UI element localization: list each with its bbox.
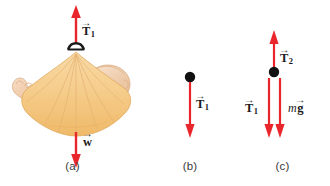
symbol-T: T→ <box>245 101 253 115</box>
label-tension-1-b: T→1 <box>196 95 209 112</box>
sling-illustration <box>0 0 145 186</box>
symbol-g: g→ <box>297 101 303 115</box>
vector-arrow-icon: → <box>195 91 205 101</box>
physics-figure: T→1 w→ (a) T→1 (b) <box>0 0 330 186</box>
label-tension-2-c: T→2 <box>280 49 293 66</box>
panel-b: T→1 (b) <box>145 0 235 186</box>
label-weight-a: w→ <box>83 133 92 149</box>
symbol-w: w→ <box>83 135 92 149</box>
subscript-1: 1 <box>254 106 258 116</box>
caption-b: (b) <box>145 160 235 172</box>
tension-1-arrow-down <box>264 78 273 138</box>
point-mass-dot <box>185 72 195 82</box>
point-mass-dot <box>269 67 279 77</box>
symbol-T: T→ <box>196 97 204 111</box>
vector-arrow-icon: → <box>295 95 305 105</box>
vector-arrow-icon: → <box>279 45 289 55</box>
panel-c: T→2 T→1 mg→ (c) <box>235 0 330 186</box>
symbol-T: T→ <box>82 24 90 38</box>
caption-a: (a) <box>0 160 145 172</box>
tension-1-arrow-down <box>185 82 194 138</box>
vector-arrow-icon: → <box>83 129 93 139</box>
subscript-1: 1 <box>205 102 209 112</box>
label-tension-1-a: T→1 <box>82 22 95 39</box>
cloth-sling <box>22 52 131 136</box>
caption-c: (c) <box>235 160 330 172</box>
label-weight-mg-c: mg→ <box>288 99 303 115</box>
free-body-diagram-b <box>145 0 235 186</box>
subscript-1: 1 <box>91 29 95 39</box>
sling-hook-icon <box>69 43 84 49</box>
panel-a: T→1 w→ (a) <box>0 0 145 186</box>
subscript-2: 2 <box>289 56 293 66</box>
tension-1-arrow-up <box>71 5 81 44</box>
vector-arrow-icon: → <box>81 18 91 28</box>
tension-2-arrow-up <box>269 30 278 67</box>
vector-arrow-icon: → <box>244 95 254 105</box>
weight-mg-arrow-down <box>275 78 284 138</box>
label-tension-1-c: T→1 <box>245 99 258 116</box>
symbol-T: T→ <box>280 51 288 65</box>
